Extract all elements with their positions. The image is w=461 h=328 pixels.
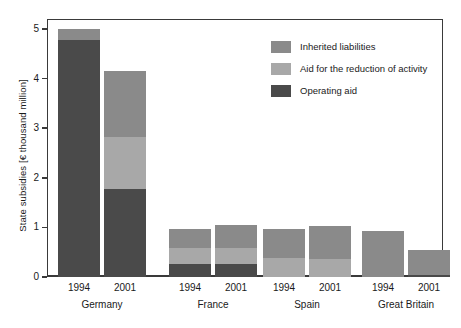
bar-segment-operating-aid bbox=[58, 40, 100, 277]
x-year-label: 1994 bbox=[54, 282, 104, 293]
bar-germany-2001 bbox=[104, 71, 146, 277]
bar-segment-inherited-liabilities bbox=[104, 71, 146, 137]
bar-segment-inherited-liabilities bbox=[309, 226, 351, 259]
y-tick-label: 4 bbox=[33, 72, 39, 85]
x-year-label: 2001 bbox=[211, 282, 261, 293]
x-group-label-germany: Germany bbox=[52, 299, 152, 310]
bar-segment-aid-for-the-reduction-of-activity bbox=[215, 248, 257, 264]
bar-segment-inherited-liabilities bbox=[58, 29, 100, 40]
x-year-label: 1994 bbox=[358, 282, 408, 293]
y-tick-label: 1 bbox=[33, 220, 39, 233]
y-tick-label: 3 bbox=[33, 121, 39, 134]
bar-germany-1994 bbox=[58, 29, 100, 277]
bar-segment-aid-for-the-reduction-of-activity bbox=[309, 259, 351, 277]
x-year-label: 1994 bbox=[165, 282, 215, 293]
legend: Inherited liabilitiesAid for the reducti… bbox=[271, 37, 427, 103]
legend-label: Inherited liabilities bbox=[300, 41, 376, 52]
bar-chart: State subsidies [€ thousand million] 012… bbox=[0, 0, 461, 328]
bar-segment-inherited-liabilities bbox=[362, 231, 404, 277]
legend-swatch bbox=[271, 85, 291, 97]
x-group-label-france: France bbox=[163, 299, 263, 310]
bar-segment-operating-aid bbox=[408, 275, 450, 277]
bar-segment-aid-for-the-reduction-of-activity bbox=[263, 258, 305, 277]
legend-swatch bbox=[271, 63, 291, 75]
bar-segment-inherited-liabilities bbox=[263, 229, 305, 258]
bar-segment-aid-for-the-reduction-of-activity bbox=[104, 137, 146, 189]
bar-france-1994 bbox=[169, 229, 211, 277]
bar-segment-inherited-liabilities bbox=[408, 250, 450, 275]
legend-item: Operating aid bbox=[271, 81, 427, 100]
y-tick-label: 5 bbox=[33, 22, 39, 35]
bar-spain-1994 bbox=[263, 229, 305, 277]
legend-item: Aid for the reduction of activity bbox=[271, 59, 427, 78]
bar-great-britain-1994 bbox=[362, 231, 404, 277]
y-axis-title: State subsidies [€ thousand million] bbox=[17, 31, 28, 281]
x-group-label-spain: Spain bbox=[257, 299, 357, 310]
bar-segment-operating-aid bbox=[169, 264, 211, 277]
bar-segment-aid-for-the-reduction-of-activity bbox=[169, 248, 211, 264]
legend-item: Inherited liabilities bbox=[271, 37, 427, 56]
bar-france-2001 bbox=[215, 225, 257, 277]
x-group-label-great-britain: Great Britain bbox=[356, 299, 456, 310]
bar-segment-inherited-liabilities bbox=[169, 229, 211, 248]
x-year-label: 2001 bbox=[100, 282, 150, 293]
y-tick-label: 2 bbox=[33, 171, 39, 184]
x-year-label: 2001 bbox=[305, 282, 355, 293]
legend-swatch bbox=[271, 41, 291, 53]
x-year-label: 1994 bbox=[259, 282, 309, 293]
bar-spain-2001 bbox=[309, 226, 351, 277]
bar-segment-operating-aid bbox=[215, 264, 257, 277]
bar-segment-operating-aid bbox=[104, 189, 146, 277]
x-year-label: 2001 bbox=[404, 282, 454, 293]
legend-label: Aid for the reduction of activity bbox=[300, 63, 427, 74]
bar-segment-inherited-liabilities bbox=[215, 225, 257, 248]
legend-label: Operating aid bbox=[300, 85, 357, 96]
x-axis-labels: 19942001199420011994200119942001GermanyF… bbox=[0, 282, 461, 328]
bar-great-britain-2001 bbox=[408, 250, 450, 277]
